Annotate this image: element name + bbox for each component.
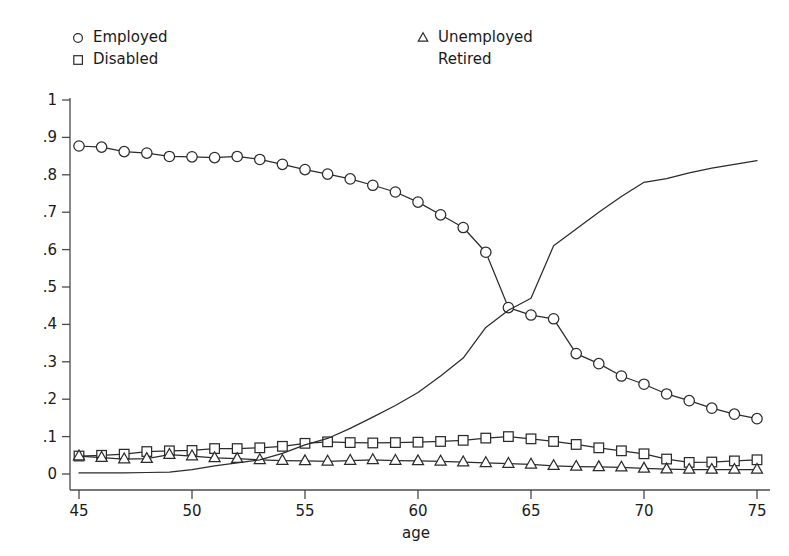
data-point-disabled [617,446,627,456]
data-point-disabled [255,443,265,453]
circle-marker-icon [74,34,83,43]
data-point-employed [96,142,106,152]
y-axis-tick-label: .1 [43,428,57,446]
data-point-employed [435,210,445,220]
data-point-employed [707,403,717,413]
y-axis-tick-label: .9 [43,128,57,146]
square-marker-icon [74,56,83,65]
x-axis-tick-label: 50 [182,502,201,520]
data-point-employed [142,148,152,158]
data-point-employed [345,174,355,184]
data-point-disabled [436,437,446,447]
x-axis-tick-label: 45 [69,502,88,520]
data-point-disabled [504,432,514,442]
data-point-disabled [391,438,401,448]
x-axis-tick-label: 60 [408,502,427,520]
data-point-employed [616,371,626,381]
data-point-disabled [571,440,581,450]
data-point-employed [729,409,739,419]
data-point-disabled [413,437,423,447]
data-point-disabled [368,438,378,448]
legend-label: Employed [93,28,168,46]
chart-figure: EmployedDisabledUnemployedRetired 0.1.2.… [0,0,789,556]
data-point-employed [526,310,536,320]
legend-label: Unemployed [438,28,533,46]
data-point-employed [74,141,84,151]
data-point-employed [639,379,649,389]
data-point-disabled [594,443,604,453]
data-point-employed [164,151,174,161]
data-point-employed [684,395,694,405]
y-axis-tick-label: 0 [47,465,57,483]
data-point-employed [390,187,400,197]
data-point-disabled [526,434,536,444]
data-point-disabled [345,438,355,448]
y-axis-tick-label: .6 [43,241,57,259]
x-axis-tick-label: 75 [747,502,766,520]
x-axis-tick-label: 70 [634,502,653,520]
data-point-employed [368,180,378,190]
data-point-employed [413,197,423,207]
data-point-employed [481,247,491,257]
data-point-disabled [639,449,649,459]
y-axis-tick-label: 1 [47,91,57,109]
legend-label: Disabled [93,50,158,68]
data-point-employed [255,154,265,164]
data-point-employed [594,358,604,368]
y-axis-tick-label: .5 [43,278,57,296]
y-axis-tick-label: .2 [43,390,57,408]
data-point-disabled [549,437,559,447]
data-point-employed [119,146,129,156]
data-point-employed [209,152,219,162]
data-point-employed [232,151,242,161]
y-axis-tick-label: .8 [43,166,57,184]
y-axis-tick-label: .7 [43,203,57,221]
y-axis-tick-label: .4 [43,315,57,333]
y-axis-tick-label: .3 [43,353,57,371]
legend-item-retired: Retired [438,50,492,68]
data-point-employed [752,413,762,423]
data-point-employed [322,169,332,179]
data-point-employed [661,389,671,399]
x-axis-title: age [402,524,430,542]
data-point-employed [187,152,197,162]
data-point-disabled [458,436,468,446]
data-point-employed [300,164,310,174]
x-axis-tick-label: 65 [521,502,540,520]
data-point-employed [277,159,287,169]
data-point-disabled [481,433,491,443]
x-axis-tick-label: 55 [295,502,314,520]
data-point-employed [458,222,468,232]
data-point-employed [548,314,558,324]
data-point-employed [571,348,581,358]
data-point-disabled [278,442,288,452]
legend-label: Retired [438,50,492,68]
employment-status-by-age-line-chart: EmployedDisabledUnemployedRetired 0.1.2.… [0,0,789,556]
